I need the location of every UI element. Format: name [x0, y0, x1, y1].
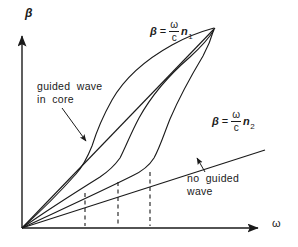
guided-wave-arrow [62, 108, 86, 141]
equation-n2-fraction: ω c [231, 110, 241, 133]
no-guided-wave-arrow [197, 158, 205, 172]
equation-light-line-n2: β = ω c n 2 [212, 110, 255, 133]
equation-n2-lhs: β [212, 115, 219, 128]
y-axis-label: β [25, 6, 32, 21]
equation-n1-equals: = [160, 25, 166, 38]
equation-n1-fraction: ω c [169, 20, 179, 43]
equation-light-line-n1: β = ω c n 1 [150, 20, 193, 43]
equation-n2-symbol: n [243, 115, 250, 128]
equation-n1-numerator: ω [169, 20, 179, 31]
dispersion-diagram-figure: β ω guided wave in core no guided wave β… [0, 0, 298, 247]
equation-n1-denominator: c [171, 32, 178, 43]
equation-n2-equals: = [222, 115, 228, 128]
annotation-guided-wave-in-core: guided wave in core [37, 80, 102, 106]
equation-n2-subscript: 2 [250, 122, 254, 133]
equation-n2-numerator: ω [231, 110, 241, 121]
equation-n1-subscript: 1 [188, 32, 192, 43]
equation-n2-denominator: c [233, 122, 240, 133]
x-axis-label: ω [272, 217, 281, 230]
equation-n1-symbol: n [181, 25, 188, 38]
annotation-no-guided-wave: no guided wave [187, 172, 239, 198]
equation-n1-lhs: β [150, 25, 157, 38]
